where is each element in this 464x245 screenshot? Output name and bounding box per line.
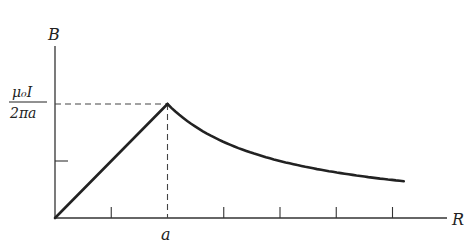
y-axis-label: B — [47, 25, 60, 44]
curve-inside-linear — [55, 104, 168, 218]
y-tick-label-peak-denominator: 2πa — [9, 105, 36, 121]
field-chart: B R μ₀I 2πa a — [0, 0, 464, 245]
y-tick-label-peak-numerator: μ₀I — [12, 84, 33, 100]
x-axis-label: R — [451, 210, 464, 229]
x-tick-label-a: a — [161, 225, 171, 244]
curve-outside-inverse — [168, 104, 404, 181]
